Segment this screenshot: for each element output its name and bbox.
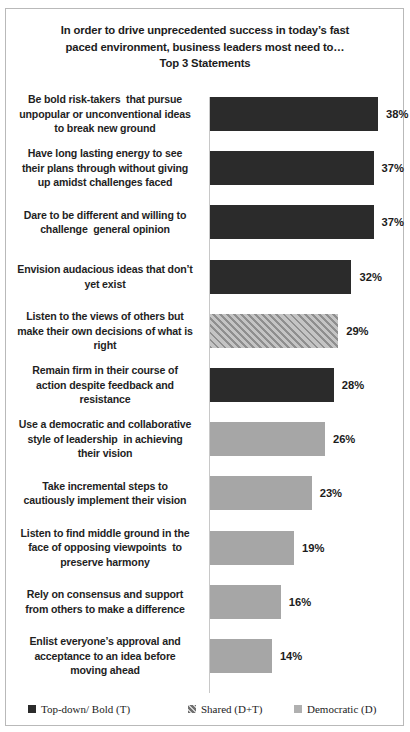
bar-democratic [210, 585, 281, 619]
bar-democratic [210, 476, 312, 510]
bar-category-label-line: resistance [6, 392, 204, 407]
bar-category-label-line: moving ahead [6, 663, 204, 678]
bar-category-label-line: from others to make a difference [6, 602, 204, 617]
legend-swatch-shared-icon [188, 705, 196, 713]
bar-row: Take incremental steps tocautiously impl… [6, 476, 404, 530]
bar-row: Be bold risk-takers that pursueunpopular… [6, 97, 404, 151]
bar-row: Rely on consensus and supportfrom others… [6, 585, 404, 639]
bar-row: Dare to be different and willing tochall… [6, 205, 404, 259]
bar-category-label-line: yet exist [6, 277, 204, 292]
bar-category-label-line: Listen to the views of others but [6, 309, 204, 324]
legend-item-shared: Shared (D+T) [188, 703, 263, 715]
bar-category-label-line: up amidst challenges faced [6, 175, 204, 190]
bar-value-label: 23% [320, 476, 342, 510]
chart-title-line-3: Top 3 Statements [20, 55, 390, 72]
bar-category-label: Rely on consensus and supportfrom others… [6, 587, 204, 616]
bar-category-label-line: action despite feedback and [6, 378, 204, 393]
legend-swatch-topdown-icon [28, 705, 36, 713]
legend-label: Democratic (D) [307, 703, 376, 715]
bar-category-label-line: make their own decisions of what is [6, 324, 204, 339]
bar-category-label-line: preserve harmony [6, 555, 204, 570]
bar-value-label: 37% [382, 151, 404, 185]
bar-category-label: Enlist everyone’s approval andacceptance… [6, 634, 204, 678]
bar-topdown [210, 368, 334, 402]
bar-category-label-line: Use a democratic and collaborative [6, 417, 204, 432]
bar-democratic [210, 422, 325, 456]
bar-category-label-line: right [6, 338, 204, 353]
legend-label: Top-down/ Bold (T) [41, 703, 130, 715]
chart-container: In order to drive unprecedented success … [0, 0, 410, 732]
bar-topdown [210, 97, 378, 131]
bar-row: Use a democratic and collaborativestyle … [6, 422, 404, 476]
legend-item-democratic: Democratic (D) [294, 703, 376, 715]
bar-value-label: 16% [289, 585, 311, 619]
bar-category-label-line: their vision [6, 446, 204, 461]
bar-value-label: 29% [346, 314, 368, 348]
bar-category-label-line: Listen to find middle ground in the [6, 526, 204, 541]
bar-category-label: Listen to find middle ground in theface … [6, 526, 204, 570]
bar-value-label: 26% [333, 422, 355, 456]
bar-category-label-line: acceptance to an idea before [6, 649, 204, 664]
bar-row: Have long lasting energy to seetheir pla… [6, 151, 404, 205]
bar-value-label: 32% [359, 260, 381, 294]
bar-category-label: Have long lasting energy to seetheir pla… [6, 146, 204, 190]
bar-category-label-line: style of leadership in achieving [6, 432, 204, 447]
bar-category-label-line: Have long lasting energy to see [6, 146, 204, 161]
bar-value-label: 19% [302, 531, 324, 565]
bar-category-label: Envision audacious ideas that don’tyet e… [6, 262, 204, 291]
bar-row: Enlist everyone’s approval andacceptance… [6, 639, 404, 693]
bar-shared [210, 314, 338, 348]
legend-swatch-democratic-icon [294, 705, 302, 713]
bar-category-label: Take incremental steps tocautiously impl… [6, 479, 204, 508]
bar-category-label-line: challenge general opinion [6, 222, 204, 237]
plot-area: Be bold risk-takers that pursueunpopular… [6, 97, 404, 693]
bar-category-label-line: their plans through without giving [6, 161, 204, 176]
chart-title-line-2: paced environment, business leaders most… [20, 39, 390, 56]
bar-category-label-line: Envision audacious ideas that don’t [6, 262, 204, 277]
bar-category-label-line: cautiously implement their vision [6, 493, 204, 508]
bar-value-label: 14% [280, 639, 302, 673]
bar-row: Listen to find middle ground in theface … [6, 531, 404, 585]
chart-title: In order to drive unprecedented success … [20, 22, 390, 72]
bar-category-label-line: Rely on consensus and support [6, 587, 204, 602]
chart-title-line-1: In order to drive unprecedented success … [20, 22, 390, 39]
bar-category-label: Be bold risk-takers that pursueunpopular… [6, 92, 204, 136]
bar-value-label: 38% [386, 97, 408, 131]
bar-value-label: 28% [342, 368, 364, 402]
bar-topdown [210, 151, 374, 185]
bar-category-label-line: Remain firm in their course of [6, 363, 204, 378]
bar-category-label-line: Dare to be different and willing to [6, 208, 204, 223]
bar-row: Envision audacious ideas that don’tyet e… [6, 260, 404, 314]
bar-democratic [210, 531, 294, 565]
bar-category-label: Remain firm in their course ofaction des… [6, 363, 204, 407]
bar-category-label-line: Be bold risk-takers that pursue [6, 92, 204, 107]
legend-label: Shared (D+T) [201, 703, 263, 715]
legend-item-topdown: Top-down/ Bold (T) [28, 703, 130, 715]
bar-topdown [210, 205, 374, 239]
bar-democratic [210, 639, 272, 673]
bar-category-label: Dare to be different and willing tochall… [6, 208, 204, 237]
bar-category-label: Listen to the views of others butmake th… [6, 309, 204, 353]
bar-topdown [210, 260, 351, 294]
bar-row: Listen to the views of others butmake th… [6, 314, 404, 368]
bar-category-label: Use a democratic and collaborativestyle … [6, 417, 204, 461]
bar-category-label-line: face of opposing viewpoints to [6, 540, 204, 555]
bar-category-label-line: to break new ground [6, 121, 204, 136]
bar-category-label-line: Enlist everyone’s approval and [6, 634, 204, 649]
bar-value-label: 37% [382, 205, 404, 239]
bar-category-label-line: unpopular or unconventional ideas [6, 107, 204, 122]
bar-row: Remain firm in their course ofaction des… [6, 368, 404, 422]
chart-legend: Top-down/ Bold (T)Shared (D+T)Democratic… [6, 703, 404, 727]
bar-category-label-line: Take incremental steps to [6, 479, 204, 494]
